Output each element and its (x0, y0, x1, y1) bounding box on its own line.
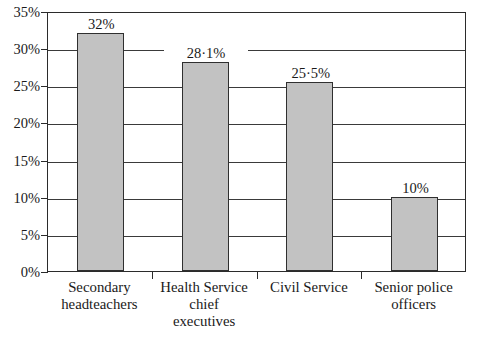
bar (286, 82, 333, 271)
category-label-line: Health Service (152, 279, 257, 296)
y-tick-label-text: 30% (13, 41, 40, 58)
category-label-line: officers (361, 296, 466, 313)
y-tick-label-text: 25% (13, 78, 40, 95)
y-tick-0 (41, 272, 48, 273)
bar-value-label: 10% (374, 181, 458, 196)
category-label-line: Secondary (47, 279, 152, 296)
bar-value-label: 25·5% (269, 66, 353, 81)
category-label: Senior policeofficers (361, 279, 466, 313)
plot-area (47, 12, 466, 272)
bar (182, 62, 229, 271)
category-label-line: Civil Service (257, 279, 362, 296)
category-label: Health Servicechiefexecutives (152, 279, 257, 330)
x-tick-separator (152, 272, 153, 279)
y-tick-label-text: 15% (13, 153, 40, 170)
bar (77, 33, 124, 271)
x-tick-separator (257, 272, 258, 279)
category-label-line: headteachers (47, 296, 152, 313)
category-label: Civil Service (257, 279, 362, 296)
y-tick-label-text: 0% (21, 264, 40, 281)
y-tick-label-text: 35% (13, 4, 40, 21)
y-tick-label-text: 10% (13, 190, 40, 207)
bar-chart: 0%5%10%15%20%25%30%35% 32%28·1%25·5%10% … (0, 0, 480, 344)
bar (391, 197, 438, 271)
category-label-line: executives (152, 313, 257, 330)
category-label-line: Senior police (361, 279, 466, 296)
y-tick-label-text: 20% (13, 115, 40, 132)
bar-value-label: 32% (59, 17, 143, 32)
category-label-line: chief (152, 296, 257, 313)
bar-value-label: 28·1% (164, 46, 248, 61)
category-label: Secondaryheadteachers (47, 279, 152, 313)
y-tick-label-text: 5% (21, 227, 40, 244)
x-tick-separator (361, 272, 362, 279)
